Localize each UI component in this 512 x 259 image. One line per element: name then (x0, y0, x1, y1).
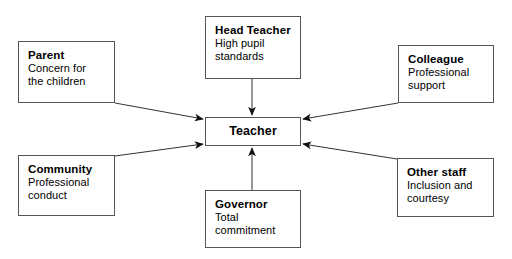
node-head-teacher-title: Head Teacher (215, 24, 300, 37)
node-governor[interactable]: Governor Total commitment (205, 190, 301, 248)
connector-other-staff-to-teacher (303, 144, 397, 159)
connector-colleague-to-teacher (303, 103, 398, 119)
node-head-teacher-description: High pupil standards (215, 37, 300, 63)
node-colleague[interactable]: Colleague Professional support (398, 45, 494, 103)
node-parent[interactable]: Parent Concern for the children (18, 41, 115, 103)
node-other-staff-title: Other staff (407, 166, 493, 179)
node-other-staff-description: Inclusion and courtesy (407, 179, 493, 205)
node-community-title: Community (28, 163, 114, 176)
node-community[interactable]: Community Professional conduct (18, 155, 115, 216)
node-head-teacher[interactable]: Head Teacher High pupil standards (205, 16, 301, 79)
node-teacher-title: Teacher (229, 124, 277, 139)
node-colleague-description: Professional support (408, 66, 493, 92)
diagram-canvas: Parent Concern for the children Head Tea… (0, 0, 512, 259)
node-other-staff[interactable]: Other staff Inclusion and courtesy (397, 158, 494, 217)
node-parent-title: Parent (28, 49, 114, 62)
node-governor-title: Governor (215, 198, 300, 211)
connector-community-to-teacher (115, 144, 203, 156)
node-teacher-center[interactable]: Teacher (205, 117, 301, 146)
node-governor-description: Total commitment (215, 211, 300, 237)
node-parent-description: Concern for the children (28, 62, 114, 88)
node-community-description: Professional conduct (28, 176, 114, 202)
node-colleague-title: Colleague (408, 53, 493, 66)
connector-parent-to-teacher (115, 103, 203, 119)
